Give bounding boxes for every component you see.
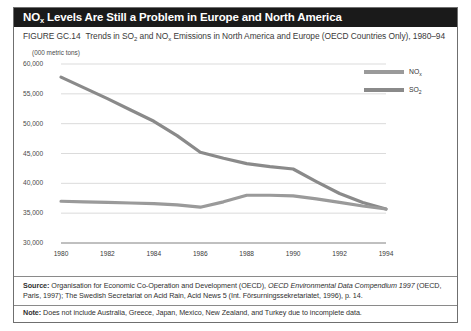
y-axis-tick-label: 60,000 xyxy=(23,60,58,67)
figure-footer: Source: Organisation for Economic Co-Ope… xyxy=(14,276,457,323)
plot-area: (000 metric tons) 30,00035,00040,00045,0… xyxy=(23,49,448,267)
y-axis-tick-label: 40,000 xyxy=(23,179,58,186)
x-axis-tick-label: 1990 xyxy=(286,250,301,257)
caption-subscript-nox: x xyxy=(168,36,171,42)
legend-label-so2-text: SO xyxy=(409,86,419,93)
x-axis-tick-label: 1984 xyxy=(147,250,162,257)
figure-title-main: NO xyxy=(23,11,40,23)
note-block: Note: Does not include Australia, Greece… xyxy=(14,306,457,323)
y-axis-tick-label: 30,000 xyxy=(23,239,58,246)
figure-title-subscript: x xyxy=(40,16,44,25)
figure-title: NOx Levels Are Still a Problem in Europe… xyxy=(14,8,457,27)
y-axis-tick-label: 50,000 xyxy=(23,120,58,127)
x-axis-tick-label: 1992 xyxy=(332,250,347,257)
legend-item-nox: NOx xyxy=(364,65,442,78)
source-line-1: Source: Organisation for Economic Co-Ope… xyxy=(23,281,448,292)
legend-label-nox-sub: x xyxy=(419,71,422,77)
caption-subscript-so2: 2 xyxy=(134,36,137,42)
y-axis-tick-label: 35,000 xyxy=(23,209,58,216)
caption-part-2: and NO xyxy=(137,31,168,41)
figure-frame: NOx Levels Are Still a Problem in Europe… xyxy=(13,7,458,323)
source-block: Source: Organisation for Economic Co-Ope… xyxy=(14,277,457,305)
figure-title-rest: Levels Are Still a Problem in Europe and… xyxy=(44,11,342,23)
source-line-2: Paris, 1997); The Swedish Secretariat on… xyxy=(23,291,448,302)
legend-label-so2-sub: 2 xyxy=(419,89,422,95)
legend-swatch-so2 xyxy=(364,88,404,92)
legend-swatch-nox xyxy=(364,70,404,74)
legend-label-so2: SO2 xyxy=(409,86,422,93)
x-axis-tick-label: 1980 xyxy=(54,250,69,257)
figure-container: NOx Levels Are Still a Problem in Europe… xyxy=(0,0,471,331)
note-line: Note: Does not include Australia, Greece… xyxy=(23,308,448,319)
source-label: Source: xyxy=(23,281,49,290)
series-line-so2 xyxy=(61,77,386,209)
y-axis-units-label: (000 metric tons) xyxy=(32,49,80,56)
legend-label-nox: NOx xyxy=(409,68,422,75)
x-axis-tick-label: 1986 xyxy=(193,250,208,257)
source-italic-title: OECD Environmental Data Compendium 1997 xyxy=(268,281,415,290)
chart-legend: NOx SO2 xyxy=(364,65,442,101)
caption-part-3: Emissions in North America and Europe (O… xyxy=(171,31,445,41)
series-line-nox xyxy=(61,195,386,209)
x-axis-tick-label: 1994 xyxy=(379,250,394,257)
figure-caption: FIGURE GC.14Trends in SO2 and NOx Emissi… xyxy=(23,31,453,41)
source-text-2: (OECD, xyxy=(415,281,442,290)
figure-number: FIGURE GC.14 xyxy=(23,31,81,41)
note-text: Does not include Australia, Greece, Japa… xyxy=(41,308,362,317)
legend-item-so2: SO2 xyxy=(364,83,442,96)
x-axis-tick-label: 1982 xyxy=(100,250,115,257)
source-text-1: Organisation for Economic Co-Operation a… xyxy=(49,281,268,290)
x-axis-tick-label: 1988 xyxy=(239,250,254,257)
legend-label-nox-text: NO xyxy=(409,68,419,75)
y-axis-tick-label: 45,000 xyxy=(23,150,58,157)
caption-part-1: Trends in SO xyxy=(86,31,134,41)
note-label: Note: xyxy=(23,308,41,317)
y-axis-tick-label: 55,000 xyxy=(23,90,58,97)
